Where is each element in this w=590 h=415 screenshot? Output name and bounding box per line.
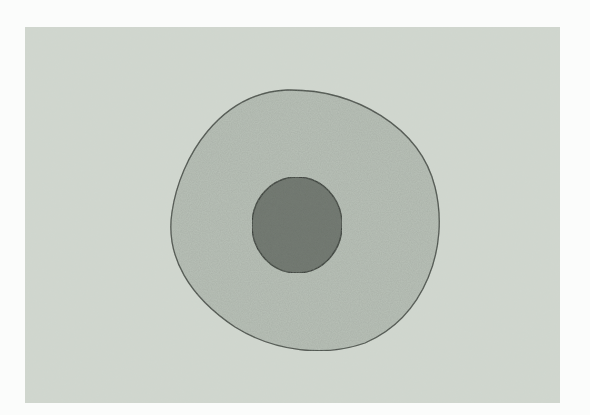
cell-illustration [25, 27, 560, 403]
specimen-plate: cell illustration [25, 27, 560, 403]
nucleus [252, 177, 342, 273]
figure-canvas: cell illustration [0, 0, 590, 415]
